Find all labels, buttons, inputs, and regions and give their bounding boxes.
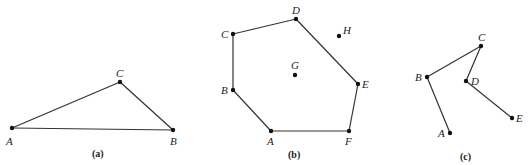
point-A [448, 131, 452, 135]
edge-AB [12, 128, 173, 130]
point-G [293, 73, 297, 77]
point-label-B: B [221, 84, 228, 96]
point-C [118, 80, 122, 84]
point-E [356, 82, 360, 86]
point-B [231, 88, 235, 92]
edge-EF [349, 84, 358, 131]
edge-CD [233, 19, 296, 34]
point-label-C: C [221, 28, 229, 40]
figure-c-polyline: ABCDE(c) [415, 31, 523, 163]
point-C [231, 32, 235, 36]
point-B [171, 128, 175, 132]
point-F [347, 129, 351, 133]
figure-b-hexagon: ABCDEFGH(b) [221, 4, 369, 161]
geometry-figures: ACB(a) ABCDEFGH(b) ABCDE(c) [0, 0, 530, 165]
edge-AB [427, 77, 450, 133]
figure-caption: (b) [288, 149, 300, 161]
point-label-B: B [415, 71, 422, 83]
point-label-D: D [470, 75, 479, 87]
point-D [294, 17, 298, 21]
point-E [510, 116, 514, 120]
point-label-B: B [170, 135, 177, 147]
point-A [10, 126, 14, 130]
point-label-C: C [478, 31, 486, 43]
point-D [464, 79, 468, 83]
point-label-H: H [342, 24, 352, 36]
edge-AC [12, 82, 120, 128]
figure-a-triangle: ACB(a) [5, 67, 177, 160]
point-label-G: G [291, 59, 299, 71]
point-B [425, 75, 429, 79]
point-label-A: A [437, 127, 445, 139]
point-label-E: E [515, 112, 523, 124]
point-label-D: D [291, 4, 300, 16]
edge-AB [233, 90, 271, 131]
point-label-A: A [266, 135, 274, 147]
point-label-A: A [5, 135, 13, 147]
edge-CB [120, 82, 173, 130]
point-C [479, 44, 483, 48]
edge-BC [427, 46, 481, 77]
point-label-F: F [344, 135, 352, 147]
point-A [269, 129, 273, 133]
point-H [337, 34, 341, 38]
figure-caption: (a) [92, 148, 104, 160]
point-label-C: C [116, 67, 124, 79]
figure-caption: (c) [460, 151, 471, 163]
point-label-E: E [361, 78, 369, 90]
